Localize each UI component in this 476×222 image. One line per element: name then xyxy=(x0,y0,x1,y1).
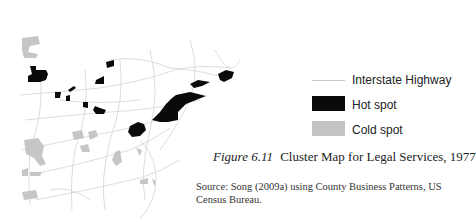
figure-title: Cluster Map for Legal Services, 1977 xyxy=(280,149,476,164)
legend-item-highway: Interstate Highway xyxy=(312,70,461,95)
legend-label: Interstate Highway xyxy=(352,73,451,87)
hot-spots xyxy=(28,60,234,137)
figure-caption: Figure 6.11 Cluster Map for Legal Servic… xyxy=(213,149,476,165)
legend-label: Cold spot xyxy=(352,123,403,137)
legend-label: Hot spot xyxy=(352,98,397,112)
highway-line-swatch xyxy=(312,80,345,81)
figure-label: Figure 6.11 xyxy=(213,149,273,164)
figure-source: Source: Song (2009a) using County Busine… xyxy=(196,180,458,206)
cold-spot-swatch xyxy=(312,121,345,136)
hot-spot-swatch xyxy=(312,96,345,111)
legend-item-cold-spot: Cold spot xyxy=(312,120,461,145)
legend-item-hot-spot: Hot spot xyxy=(312,95,461,120)
map-legend: Interstate Highway Hot spot Cold spot xyxy=(312,70,461,145)
